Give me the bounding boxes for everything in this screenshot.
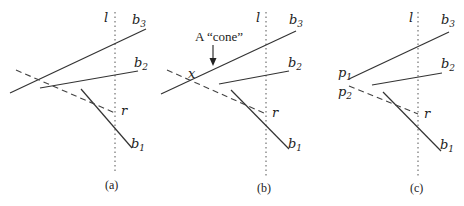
- cone-diagram: l b3 b2 b1 r (a) A “cone” x l b3 b2 b1 r…: [0, 0, 464, 206]
- label-l: l: [409, 10, 413, 25]
- label-b3: b3: [132, 12, 146, 29]
- label-x: x: [188, 66, 196, 81]
- label-r: r: [272, 105, 279, 120]
- panel-b: A “cone” x l b3 b2 b1 r (b): [161, 10, 303, 195]
- dashed-ray: [349, 86, 418, 114]
- segment-b2: [219, 71, 289, 84]
- dashed-ray: [167, 70, 266, 114]
- segment-b3: [349, 32, 449, 79]
- label-b1: b1: [131, 136, 145, 153]
- panel-c: p1 p2 l b3 b2 b1 r (c): [338, 10, 455, 195]
- label-b2: b2: [288, 55, 302, 72]
- caption-c: (c): [410, 181, 423, 195]
- segment-b1: [81, 89, 132, 148]
- cone-annotation: A “cone”: [195, 29, 243, 44]
- label-b1: b1: [440, 137, 454, 154]
- label-b3: b3: [289, 12, 303, 29]
- label-p1: p1: [338, 65, 352, 82]
- label-r: r: [121, 103, 128, 118]
- label-l: l: [104, 10, 108, 25]
- label-l: l: [256, 10, 260, 25]
- segment-b2: [372, 73, 442, 85]
- segment-b3: [10, 29, 146, 93]
- segment-b1: [231, 90, 289, 149]
- segment-b1: [383, 92, 441, 151]
- dashed-ray: [16, 70, 115, 113]
- arrow-head-icon: [210, 58, 217, 66]
- caption-a: (a): [105, 178, 118, 192]
- label-b1: b1: [288, 136, 302, 153]
- segment-b2: [40, 71, 138, 88]
- label-r: r: [424, 106, 431, 121]
- panel-a: l b3 b2 b1 r (a): [10, 10, 148, 192]
- label-b2: b2: [134, 55, 148, 72]
- label-b2: b2: [441, 56, 455, 73]
- caption-b: (b): [257, 181, 271, 195]
- label-b3: b3: [441, 12, 455, 29]
